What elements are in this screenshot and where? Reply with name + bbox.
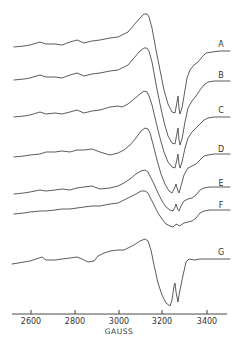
series-label-d: D [218,145,224,154]
series-label-b: B [218,71,224,80]
epr-spectra-chart: A B C D E F G 2600 2800 3000 3200 3400 G… [0,0,239,340]
x-tick-label-3200: 3200 [152,317,172,326]
trace-g [12,239,230,306]
series-label-e: E [218,179,223,188]
trace-e [14,170,230,211]
x-tick-label-2800: 2800 [65,317,85,326]
trace-a [14,14,230,114]
series-label-c: C [218,106,224,115]
series-label-a: A [218,40,224,49]
series-label-g: G [218,248,224,257]
series-label-f: F [219,201,224,210]
trace-f [14,191,230,227]
x-tick-label-3000: 3000 [109,317,129,326]
x-tick-label-2600: 2600 [21,317,41,326]
trace-c [14,91,230,168]
x-tick-label-3400: 3400 [197,317,217,326]
x-axis-title: GAUSS [105,327,133,336]
trace-d [14,128,230,193]
